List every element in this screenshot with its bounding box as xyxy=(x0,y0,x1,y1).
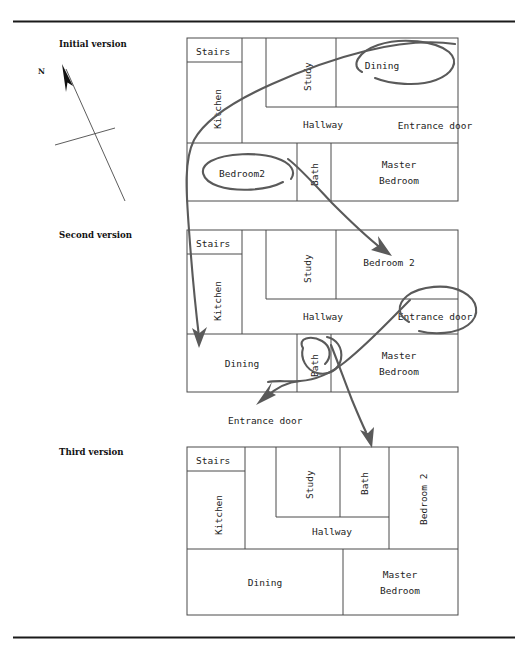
v1-room-master-line2: Bedroom xyxy=(379,175,419,186)
v1-room-dining: Dining xyxy=(365,60,399,71)
bath-move-arrowhead xyxy=(360,427,374,448)
v2-entrance-door-label: Entrance door xyxy=(398,311,473,322)
v3-room-kitchen: Kitchen xyxy=(213,495,224,535)
version-label-second: Second version xyxy=(59,230,133,240)
floor-plan-evolution-figure: Initial version Second version Third ver… xyxy=(0,0,529,650)
v3-room-bedroom2: Bedroom 2 xyxy=(418,474,429,525)
v1-room-kitchen: Kitchen xyxy=(212,89,223,129)
compass-north-label: N xyxy=(38,67,45,76)
v2-room-hallway: Hallway xyxy=(303,311,343,322)
v1-room-study: Study xyxy=(302,62,313,91)
v2-room-master-line1: Master xyxy=(382,350,417,361)
v1-entrance-door-label: Entrance door xyxy=(398,120,473,131)
v2-room-bedroom2: Bedroom 2 xyxy=(363,257,414,268)
v3-room-study: Study xyxy=(304,470,315,499)
floor-plan-v3: Stairs Kitchen Study Bath Bedroom 2 Hall… xyxy=(187,447,458,615)
v2-room-study: Study xyxy=(302,254,313,283)
version-label-initial: Initial version xyxy=(59,39,127,49)
entrance-door-circle-v2 xyxy=(400,287,477,334)
v3-room-stairs: Stairs xyxy=(196,455,230,466)
v3-room-dining: Dining xyxy=(248,577,282,588)
v3-room-hallway: Hallway xyxy=(312,526,352,537)
v2-room-kitchen: Kitchen xyxy=(212,281,223,321)
v1-room-stairs: Stairs xyxy=(196,46,230,57)
entrance-door-move-arrowhead xyxy=(256,382,276,405)
compass-arrowhead xyxy=(62,64,73,92)
v2-room-stairs: Stairs xyxy=(196,238,230,249)
entrance-door-callout-label: Entrance door xyxy=(228,415,303,426)
v3-room-bath: Bath xyxy=(359,472,370,495)
v3-room-master-line2: Bedroom xyxy=(380,585,420,596)
v2-room-master-line2: Bedroom xyxy=(379,366,419,377)
north-arrow: N xyxy=(38,64,125,201)
bedroom2-move-arrow-path xyxy=(288,159,382,249)
figure-canvas: Initial version Second version Third ver… xyxy=(0,0,529,650)
v2-room-dining: Dining xyxy=(225,358,259,369)
v1-room-master-line1: Master xyxy=(382,159,417,170)
v1-room-hallway: Hallway xyxy=(303,119,343,130)
v1-room-bath: Bath xyxy=(309,163,320,186)
v3-room-master-line1: Master xyxy=(383,569,418,580)
bedroom2-move-arrowhead xyxy=(371,236,392,256)
v1-room-bedroom2: Bedroom2 xyxy=(219,168,265,179)
version-label-third: Third version xyxy=(59,447,124,457)
dining-move-arrowhead xyxy=(192,327,207,348)
floor-plan-v2: Stairs Kitchen Study Bedroom 2 Hallway E… xyxy=(187,230,472,392)
